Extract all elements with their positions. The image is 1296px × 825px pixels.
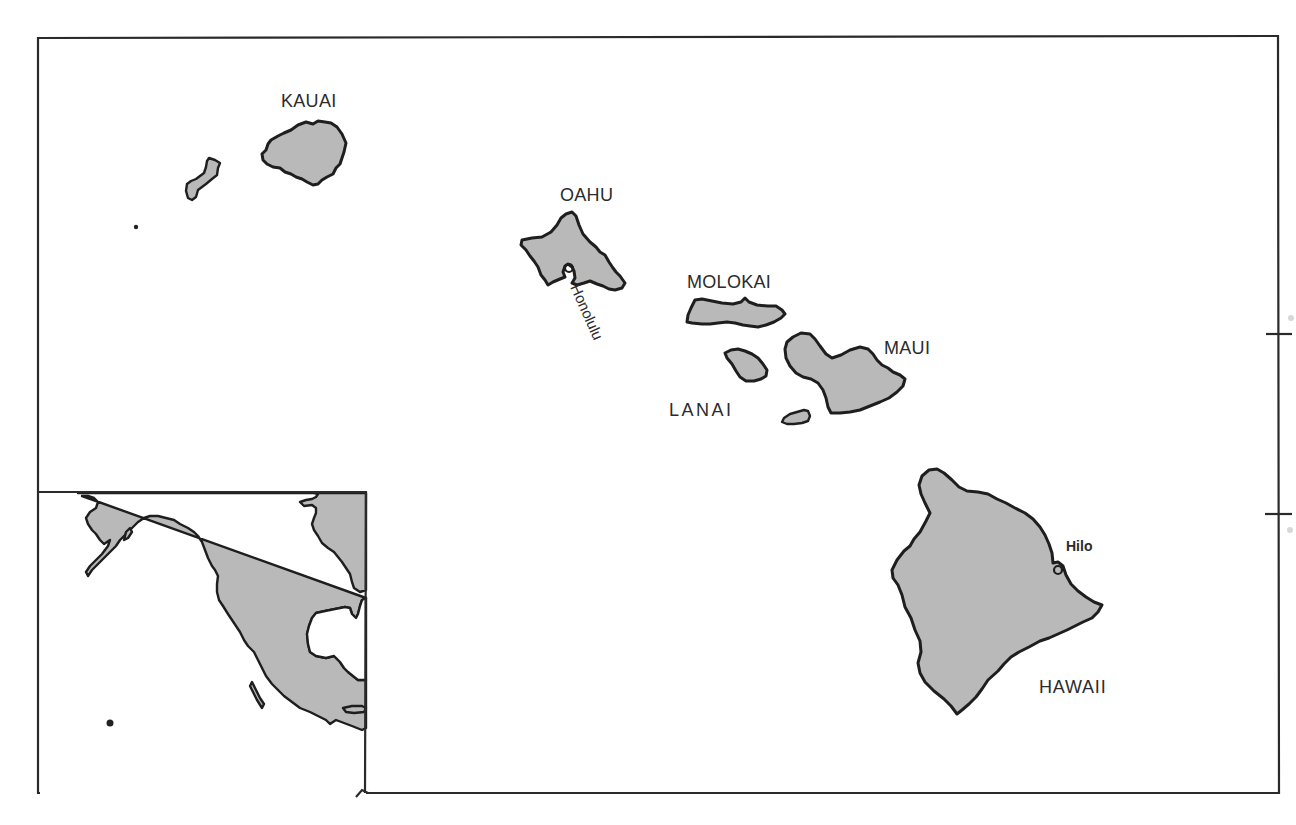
edge-smudge [1288,315,1294,321]
island-lanai [725,349,767,381]
label-hilo: Hilo [1066,538,1092,554]
edge-smudge [1287,527,1293,533]
islet-dot [134,225,138,229]
label-kauai: KAUAI [281,91,337,111]
island-kauai [262,121,346,185]
label-lanai: LANAI [669,400,734,420]
label-hawaii: HAWAII [1039,677,1106,697]
label-oahu: OAHU [560,185,613,205]
inset-cuba [343,706,366,713]
island-kahoolawe [782,410,810,424]
island-niihau [186,158,220,200]
locator-inset [38,492,368,797]
label-honolulu: Honolulu [567,281,607,342]
map-canvas: KAUAI OAHU Honolulu MOLOKAI LANAI MAUI H… [0,0,1296,825]
hawaii-location-dot [107,720,114,727]
label-maui: MAUI [884,338,930,358]
island-oahu [521,212,625,290]
label-molokai: MOLOKAI [687,272,771,292]
island-molokai [687,298,785,327]
